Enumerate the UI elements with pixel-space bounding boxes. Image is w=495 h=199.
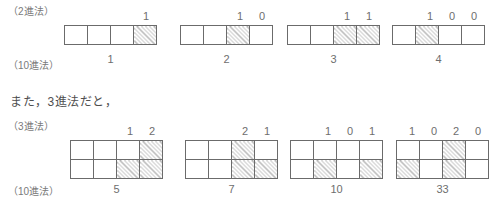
cell-hatch xyxy=(443,141,466,160)
ternary-group-3-decimal: 10 xyxy=(290,184,383,195)
digit: 0 xyxy=(339,126,361,137)
ternary-group-3-digits: 101 xyxy=(317,126,383,137)
cell-empty xyxy=(88,26,111,45)
ternary-base-label: （3進法） xyxy=(8,118,54,133)
cell-empty xyxy=(65,26,88,45)
digit: 1 xyxy=(358,11,380,22)
binary-group-1-digits: 1 xyxy=(135,11,157,22)
cell-empty xyxy=(337,141,360,160)
cell-empty xyxy=(250,26,273,45)
cell-empty xyxy=(397,141,420,160)
digit: 1 xyxy=(317,126,339,137)
grid-row xyxy=(291,160,383,179)
cell-empty xyxy=(291,141,314,160)
cell-hatch xyxy=(360,160,383,179)
binary-decimal-label: （10進法） xyxy=(8,57,59,72)
digit: 1 xyxy=(361,126,383,137)
binary-group-2-digits: 10 xyxy=(229,11,273,22)
grid-row xyxy=(393,26,485,45)
cell-hatch xyxy=(255,160,278,179)
ternary-decimal-label: （10進法） xyxy=(8,183,59,198)
cell-hatch xyxy=(134,26,157,45)
cell-empty xyxy=(337,160,360,179)
cell-empty xyxy=(186,160,209,179)
cell-hatch xyxy=(227,26,250,45)
cell-hatch xyxy=(314,160,337,179)
cell-empty xyxy=(466,141,489,160)
ternary-group-2-grid xyxy=(185,140,278,179)
cell-hatch xyxy=(232,141,255,160)
digit: 1 xyxy=(256,126,278,137)
cell-hatch xyxy=(334,26,357,45)
cell-empty xyxy=(209,160,232,179)
ternary-group-1-decimal: 5 xyxy=(70,184,163,195)
ternary-group-2: 21 7 xyxy=(185,140,278,179)
cell-empty xyxy=(94,160,117,179)
grid-row xyxy=(186,141,278,160)
binary-group-2: 10 2 xyxy=(180,25,273,45)
binary-group-3-digits: 11 xyxy=(336,11,380,22)
ternary-group-1-digits: 12 xyxy=(119,126,163,137)
cell-empty xyxy=(255,141,278,160)
cell-hatch xyxy=(140,141,163,160)
binary-group-2-decimal: 2 xyxy=(180,54,273,65)
binary-group-1-decimal: 1 xyxy=(64,54,157,65)
cell-hatch xyxy=(232,160,255,179)
digit: 0 xyxy=(441,11,463,22)
digit: 1 xyxy=(419,11,441,22)
cell-hatch xyxy=(443,160,466,179)
cell-empty xyxy=(71,160,94,179)
digit: 1 xyxy=(401,126,423,137)
grid-row xyxy=(288,26,380,45)
digit: 0 xyxy=(463,11,485,22)
ternary-group-3: 101 10 xyxy=(290,140,383,179)
binary-group-3-decimal: 3 xyxy=(287,54,380,65)
ternary-group-2-digits: 21 xyxy=(234,126,278,137)
cell-empty xyxy=(111,26,134,45)
grid-row xyxy=(71,160,163,179)
cell-empty xyxy=(181,26,204,45)
binary-group-4-grid xyxy=(392,25,485,45)
ternary-group-4-grid xyxy=(396,140,489,179)
cell-empty xyxy=(204,26,227,45)
grid-row xyxy=(397,160,489,179)
digit: 2 xyxy=(445,126,467,137)
grid-row xyxy=(71,141,163,160)
digit: 1 xyxy=(135,11,157,22)
digit: 2 xyxy=(234,126,256,137)
digit: 1 xyxy=(336,11,358,22)
binary-group-3-grid xyxy=(287,25,380,45)
cell-empty xyxy=(209,141,232,160)
digit: 0 xyxy=(467,126,489,137)
binary-group-1: 1 1 xyxy=(64,25,157,45)
cell-empty xyxy=(360,141,383,160)
binary-group-2-grid xyxy=(180,25,273,45)
cell-hatch xyxy=(140,160,163,179)
cell-empty xyxy=(311,26,334,45)
ternary-group-1: 12 5 xyxy=(70,140,163,179)
grid-row xyxy=(65,26,157,45)
cell-empty xyxy=(314,141,337,160)
cell-empty xyxy=(94,141,117,160)
cell-empty xyxy=(420,141,443,160)
binary-base-label: （2進法） xyxy=(8,3,54,18)
cell-empty xyxy=(291,160,314,179)
cell-hatch xyxy=(117,160,140,179)
cell-empty xyxy=(71,141,94,160)
cell-hatch xyxy=(357,26,380,45)
cell-empty xyxy=(393,26,416,45)
cell-empty xyxy=(420,160,443,179)
cell-hatch xyxy=(416,26,439,45)
grid-row xyxy=(397,141,489,160)
ternary-group-4: 1020 33 xyxy=(396,140,489,179)
ternary-group-3-grid xyxy=(290,140,383,179)
note-text: また，3進法だと， xyxy=(10,92,117,109)
grid-row xyxy=(186,160,278,179)
grid-row xyxy=(181,26,273,45)
ternary-group-4-digits: 1020 xyxy=(401,126,489,137)
cell-empty xyxy=(186,141,209,160)
digit: 1 xyxy=(229,11,251,22)
ternary-group-1-grid xyxy=(70,140,163,179)
cell-empty xyxy=(466,160,489,179)
cell-empty xyxy=(288,26,311,45)
